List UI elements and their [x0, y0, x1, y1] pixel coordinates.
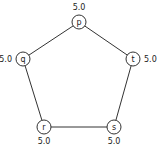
node-p: p5.0 [72, 3, 86, 29]
node-value: 5.0 [108, 137, 121, 146]
node-label: t [131, 55, 134, 64]
node-q: q5.0 [0, 52, 30, 66]
node-value: 5.0 [38, 137, 51, 146]
edge-s-t [114, 59, 133, 127]
node-label: s [112, 123, 116, 132]
edges [23, 22, 133, 127]
node-value: 5.0 [144, 55, 157, 64]
node-r: r5.0 [37, 120, 51, 146]
node-value: 5.0 [0, 55, 12, 64]
edge-p-t [79, 22, 133, 59]
graph-diagram: p5.0q5.0t5.0r5.0s5.0 [0, 0, 158, 147]
nodes: p5.0q5.0t5.0r5.0s5.0 [0, 3, 157, 146]
edge-q-r [23, 59, 44, 127]
edge-p-q [23, 22, 79, 59]
node-label: q [20, 55, 25, 64]
node-s: s5.0 [107, 120, 121, 146]
node-label: p [76, 18, 81, 27]
node-value: 5.0 [73, 3, 86, 12]
node-t: t5.0 [126, 52, 157, 66]
